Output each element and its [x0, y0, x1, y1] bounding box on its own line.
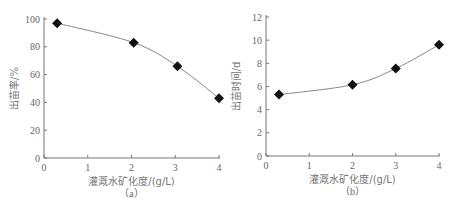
y-tick-label: 8 [257, 58, 262, 69]
x-tick-label: 0 [264, 160, 269, 171]
diamond-marker [391, 64, 401, 74]
x-tick-label: 3 [393, 160, 398, 171]
diamond-marker [52, 18, 62, 28]
diamond-marker [348, 80, 358, 90]
y-tick-label: 0 [35, 153, 40, 164]
y-tick-label: 80 [30, 41, 40, 52]
x-tick-label: 1 [307, 160, 312, 171]
y-tick-label: 100 [25, 14, 40, 25]
y-tick-label: 40 [30, 97, 40, 108]
x-tick-label: 4 [217, 162, 222, 173]
x-tick-label: 2 [129, 162, 134, 173]
diamond-marker [214, 93, 224, 103]
chart-caption: （b） [340, 186, 365, 197]
diamond-marker [172, 61, 182, 71]
y-tick-label: 0 [257, 151, 262, 162]
y-tick-label: 4 [257, 104, 262, 115]
diamond-marker [129, 38, 139, 48]
x-tick-label: 2 [350, 160, 355, 171]
x-tick-label: 1 [85, 162, 90, 173]
y-axis-label: 出苗率/% [8, 67, 20, 110]
chart-canvas: 02040608010001234灌溉水矿化度/(g/L)（a）出苗率/% 02… [0, 0, 454, 210]
x-tick-label: 3 [173, 162, 178, 173]
x-tick-label: 4 [437, 160, 442, 171]
y-tick-label: 2 [257, 127, 262, 138]
chart-panel-b: 02468101201234灌溉水矿化度/(g/L)（b）出苗时间/d [230, 12, 444, 198]
y-tick-label: 60 [30, 69, 40, 80]
data-line [57, 23, 219, 98]
y-tick-label: 10 [252, 35, 262, 46]
x-tick-label: 0 [42, 162, 47, 173]
diamond-marker [274, 90, 284, 100]
y-axis-label: 出苗时间/d [230, 62, 242, 112]
y-tick-label: 20 [30, 125, 40, 136]
chart-panel-a: 02040608010001234灌溉水矿化度/(g/L)（a）出苗率/% [8, 14, 224, 200]
y-tick-label: 6 [257, 81, 262, 92]
diamond-marker [434, 40, 444, 50]
x-axis-label: 灌溉水矿化度/(g/L) [309, 173, 396, 185]
chart-caption: （a） [119, 188, 143, 199]
y-tick-label: 12 [252, 12, 262, 23]
x-axis-label: 灌溉水矿化度/(g/L) [88, 175, 175, 187]
data-line [279, 45, 439, 95]
